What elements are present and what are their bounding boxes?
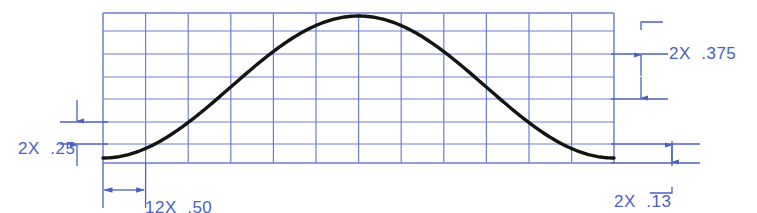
- technical-drawing-canvas: 2X .252X .3752X .1312X .50: [0, 0, 757, 213]
- drawing-svg: [0, 0, 757, 213]
- dimension-label-left-vertical: 2X .25: [18, 139, 75, 159]
- dimension-annotations: [60, 22, 700, 208]
- dimension-label-right-lower-vertical: 2X .13: [614, 192, 671, 212]
- dimension-label-bottom-horizontal: 12X .50: [145, 198, 212, 213]
- dimension-label-right-upper-vertical: 2X .375: [669, 44, 736, 64]
- blue-grid: [103, 13, 614, 163]
- leader-line: [641, 22, 663, 30]
